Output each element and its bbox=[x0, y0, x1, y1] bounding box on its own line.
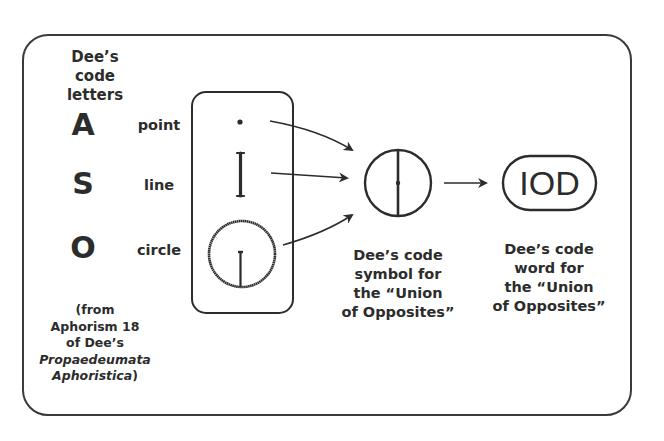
caption-line: of Opposites” bbox=[338, 303, 458, 322]
caption-line: the “Union bbox=[338, 284, 458, 303]
caption-line: Dee’s code bbox=[488, 240, 610, 259]
arrow-line-to-symbol bbox=[271, 173, 347, 178]
caption-line: symbol for bbox=[338, 265, 458, 284]
iod-word: IOD bbox=[519, 164, 579, 202]
arrow-point-to-symbol bbox=[270, 121, 352, 150]
caption-line: of Opposites” bbox=[488, 297, 610, 316]
circle-icon bbox=[209, 221, 275, 287]
word-caption: Dee’s code word for the “Union of Opposi… bbox=[488, 240, 610, 316]
union-symbol-icon bbox=[365, 150, 431, 216]
caption-line: the “Union bbox=[488, 278, 610, 297]
line-icon bbox=[237, 153, 244, 196]
caption-line: Dee’s code bbox=[338, 246, 458, 265]
caption-line: word for bbox=[488, 259, 610, 278]
elements-box bbox=[192, 92, 293, 313]
symbol-caption: Dee’s code symbol for the “Union of Oppo… bbox=[338, 246, 458, 322]
point-icon bbox=[237, 119, 242, 124]
diagram-graphics: IOD bbox=[0, 0, 664, 441]
